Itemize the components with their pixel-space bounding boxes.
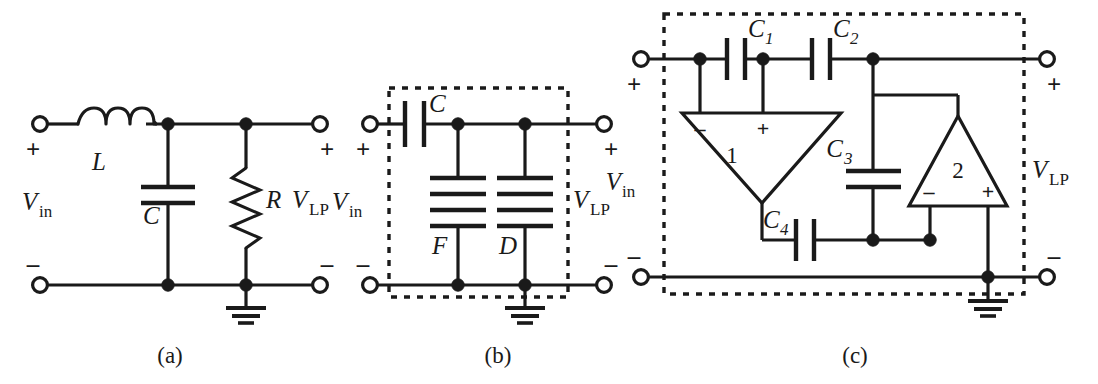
input-terminal-positive[interactable]	[33, 117, 48, 132]
capacitor-label-C1: C 1	[748, 15, 774, 48]
junction-node	[867, 234, 879, 246]
input-voltage-label-c: V in	[606, 168, 636, 201]
svg-text:1: 1	[765, 29, 774, 48]
input-terminal-negative[interactable]	[363, 278, 378, 293]
inductor-label-L: L	[91, 148, 106, 175]
junction-node	[452, 279, 464, 291]
svg-text:C: C	[748, 15, 765, 42]
junction-node	[982, 271, 994, 283]
capacitor-label-C4: C 4	[763, 206, 789, 239]
input-minus-sign: –	[356, 250, 370, 277]
svg-text:2: 2	[850, 29, 859, 48]
junction-node	[240, 118, 252, 130]
circuit-c: – + 1	[606, 14, 1069, 316]
caption-b: (b)	[485, 343, 512, 368]
junction-node	[162, 279, 174, 291]
output-terminal-negative[interactable]	[313, 278, 328, 293]
output-voltage-label-c: V LP	[1032, 156, 1069, 189]
opamp-1-number: 1	[726, 143, 738, 168]
input-plus-sign: +	[627, 71, 641, 98]
capacitor-label-C-b: C	[429, 90, 446, 117]
output-voltage-label-b: V LP	[573, 186, 610, 219]
svg-text:V: V	[573, 186, 591, 213]
input-plus-sign: +	[26, 136, 40, 163]
output-minus-sign: –	[320, 250, 334, 277]
capacitor-label-C3: C 3	[826, 135, 852, 168]
svg-text:3: 3	[843, 149, 853, 168]
svg-text:LP: LP	[590, 200, 610, 219]
output-voltage-label-a: V LP	[292, 186, 329, 219]
input-terminal-positive[interactable]	[634, 52, 649, 67]
capacitor-label-C2: C 2	[833, 15, 859, 48]
svg-text:LP: LP	[1049, 170, 1069, 189]
junction-node	[867, 53, 879, 65]
opamp-2-minus-input-label: –	[923, 179, 936, 204]
output-plus-sign: +	[604, 136, 618, 163]
output-terminal-positive[interactable]	[1040, 52, 1055, 67]
opamp-1-plus-input-label: +	[757, 116, 770, 141]
svg-text:4: 4	[780, 220, 789, 239]
output-minus-sign: –	[604, 250, 618, 277]
junction-node	[694, 53, 706, 65]
svg-text:in: in	[39, 202, 53, 221]
fdnr-D	[497, 124, 553, 285]
fdnr-F	[430, 124, 486, 285]
caption-c: (c)	[842, 343, 868, 368]
junction-node	[452, 118, 464, 130]
opamp-1: – + 1	[682, 59, 841, 203]
opamp-2-plus-input-label: +	[982, 179, 995, 204]
svg-text:V: V	[292, 186, 310, 213]
junction-node	[757, 53, 769, 65]
circuit-c-top-rail	[649, 38, 1039, 80]
capacitor-label-C: C	[143, 202, 160, 229]
junction-node	[162, 118, 174, 130]
inductor-L	[78, 108, 156, 124]
output-minus-sign: –	[1047, 242, 1061, 269]
circuit-b: + – + – C F D V in V LP	[332, 88, 618, 323]
output-plus-sign: +	[1047, 71, 1061, 98]
svg-text:in: in	[622, 182, 636, 201]
junction-node	[519, 279, 531, 291]
input-minus-sign: –	[26, 250, 40, 277]
svg-text:C: C	[763, 206, 780, 233]
output-terminal-negative[interactable]	[1040, 270, 1055, 285]
fdnr-label-F: F	[431, 232, 448, 259]
input-terminal-negative[interactable]	[33, 278, 48, 293]
resistor-label-R: R	[265, 186, 281, 213]
output-terminal-positive[interactable]	[313, 117, 328, 132]
opamp-1-minus-input-label: –	[694, 116, 707, 141]
junction-node	[519, 118, 531, 130]
opamp-2-number: 2	[952, 158, 964, 183]
input-terminal-positive[interactable]	[363, 117, 378, 132]
figure-canvas: + – + – L C R V in V LP	[0, 0, 1098, 384]
svg-text:V: V	[332, 188, 350, 215]
svg-text:LP: LP	[309, 200, 329, 219]
output-plus-sign: +	[320, 136, 334, 163]
svg-text:in: in	[349, 202, 363, 221]
capacitor-C3-branch	[846, 59, 901, 240]
resistor-R	[232, 124, 260, 285]
circuit-b-top-rail	[378, 101, 596, 147]
caption-a: (a)	[157, 343, 183, 368]
input-minus-sign: –	[627, 242, 641, 269]
output-terminal-negative[interactable]	[597, 278, 612, 293]
output-terminal-positive[interactable]	[597, 117, 612, 132]
input-voltage-label-b: V in	[332, 188, 363, 221]
circuit-a: + – + – L C R V in V LP	[22, 108, 334, 323]
svg-text:C: C	[833, 15, 850, 42]
svg-text:C: C	[826, 135, 843, 162]
input-plus-sign: +	[356, 136, 370, 163]
circuit-figure-svg: + – + – L C R V in V LP	[0, 0, 1098, 384]
input-voltage-label-a: V in	[22, 188, 53, 221]
fdnr-label-D: D	[498, 232, 517, 259]
svg-text:V: V	[1032, 156, 1050, 183]
junction-node	[240, 279, 252, 291]
junction-node	[924, 234, 936, 246]
svg-text:V: V	[22, 188, 40, 215]
input-terminal-negative[interactable]	[634, 270, 649, 285]
